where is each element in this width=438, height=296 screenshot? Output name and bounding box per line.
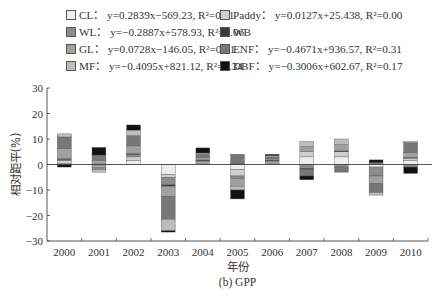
bar-segment-2008-mf	[334, 139, 348, 145]
bar-segment-2002-enf	[127, 136, 141, 146]
chart: 3020100−10−20−30200020012002200320042005…	[0, 0, 438, 296]
x-tick-label: 2000	[53, 246, 76, 258]
y-tick-label: 30	[32, 82, 44, 94]
bar-segment-2002-cl	[127, 161, 141, 165]
bar-segment-2002-wl	[127, 154, 141, 157]
bar-segment-2002-mf	[127, 130, 141, 136]
y-tick-label: −10	[26, 184, 44, 196]
bar-segment-2009-mf	[369, 193, 383, 196]
bar-segment-2001-mf	[92, 170, 106, 173]
bar-segment-2001-enf	[92, 155, 106, 160]
axes: 3020100−10−20−30200020012002200320042005…	[26, 82, 428, 258]
bar-segment-2007-gl	[300, 147, 314, 152]
bar-segment-2008-cl	[334, 157, 348, 165]
bar-segment-2010-enf	[404, 143, 418, 152]
x-axis-label: 年份	[227, 260, 250, 274]
bar-segment-2007-paddy	[300, 152, 314, 157]
x-tick-label: 2009	[365, 246, 388, 258]
x-tick-label: 2008	[330, 246, 353, 258]
bar-segment-2005-mf	[231, 186, 245, 190]
bar-segment-2003-paddy	[161, 175, 175, 178]
bar-segment-2002-paddy	[127, 157, 141, 161]
x-tick-label: 2003	[157, 246, 180, 258]
bar-segment-2005-gl	[231, 179, 245, 187]
bar-segment-2010-dbf	[404, 167, 418, 173]
bar-segment-2002-dbf	[127, 125, 141, 130]
y-tick-label: 20	[32, 108, 44, 120]
bar-segment-2006-dbf	[265, 154, 279, 155]
chart-caption: (b) GPP	[219, 276, 256, 289]
bar-segment-2010-cl	[404, 161, 418, 165]
bar-segment-2005-paddy	[231, 170, 245, 176]
x-tick-label: 2010	[400, 246, 423, 258]
bar-segment-2007-enf	[300, 170, 314, 176]
bar-segment-2001-wl	[92, 167, 106, 170]
bar-segment-2005-cl	[231, 165, 245, 170]
x-tick-label: 2006	[261, 246, 284, 258]
y-tick-label: −30	[26, 235, 44, 247]
y-axis-label: 相对距平(%)	[9, 133, 23, 197]
bar-segment-2000-mf	[57, 134, 71, 137]
bar-segment-2003-mf	[161, 219, 175, 230]
x-tick-label: 2001	[88, 246, 110, 258]
bar-segment-2004-gl	[196, 157, 210, 160]
bar-segment-2007-dbf	[300, 176, 314, 180]
bar-segment-2005-enf	[231, 154, 245, 163]
x-tick-label: 2004	[192, 246, 215, 258]
y-tick-label: 0	[38, 159, 44, 171]
bar-segment-2009-gl	[369, 176, 383, 184]
x-tick-label: 2002	[123, 246, 145, 258]
x-tick-label: 2007	[296, 246, 319, 258]
bar-segment-2006-enf	[265, 157, 279, 159]
bar-segment-2000-gl	[57, 148, 71, 158]
bar-segment-2009-enf	[369, 184, 383, 193]
bar-segment-2007-mf	[300, 142, 314, 147]
bar-segment-2002-gl	[127, 146, 141, 154]
bar-segment-2005-dbf	[231, 190, 245, 199]
bar-segment-2003-gl	[161, 186, 175, 196]
bar-segment-2010-gl	[404, 152, 418, 157]
bar-segment-2000-enf	[57, 137, 71, 148]
bar-segment-2008-paddy	[334, 152, 348, 157]
bar-segment-2005-wl	[231, 176, 245, 179]
y-tick-label: 10	[32, 133, 44, 145]
bars	[57, 125, 417, 232]
bar-segment-2009-wl	[369, 167, 383, 176]
bar-segment-2008-enf	[334, 167, 348, 172]
bar-segment-2003-dbf	[161, 231, 175, 232]
bar-segment-2007-wl	[300, 165, 314, 169]
bar-segment-2001-dbf	[92, 147, 106, 155]
bar-segment-2009-dbf	[369, 160, 383, 163]
bar-segment-2004-enf	[196, 154, 210, 157]
bar-segment-2003-enf	[161, 196, 175, 219]
bar-segment-2010-mf	[404, 142, 418, 143]
bar-segment-2004-dbf	[196, 148, 210, 153]
y-tick-label: −20	[26, 210, 44, 222]
bar-segment-2003-wl	[161, 177, 175, 185]
bar-segment-2007-cl	[300, 157, 314, 165]
bar-segment-2001-gl	[92, 160, 106, 164]
bar-segment-2000-paddy	[57, 161, 71, 164]
bar-segment-2003-cl	[161, 165, 175, 175]
bar-segment-2008-gl	[334, 145, 348, 151]
bar-segment-2010-paddy	[404, 158, 418, 161]
x-tick-label: 2005	[227, 246, 250, 258]
